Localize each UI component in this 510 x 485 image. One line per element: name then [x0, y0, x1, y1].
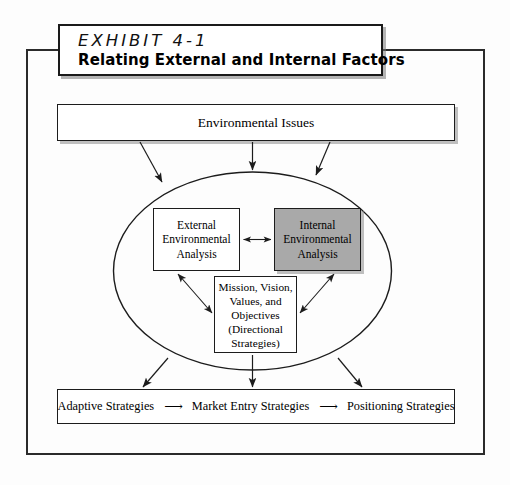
external-analysis-line-3: Analysis: [162, 247, 230, 262]
external-analysis-line-1: External: [162, 218, 230, 233]
external-analysis-line-2: Environmental: [162, 232, 230, 247]
internal-analysis-line-1: Internal: [283, 218, 351, 233]
exhibit-subtitle: Relating External and Internal Factors: [78, 50, 381, 71]
market-entry-strategies-label: Market Entry Strategies: [192, 399, 309, 414]
directional-strategies-line-1: Mission, Vision,: [218, 280, 292, 294]
positioning-strategies-label: Positioning Strategies: [347, 399, 455, 414]
internal-analysis-line-2: Environmental: [283, 232, 351, 247]
strategies-sequence-box: Adaptive Strategies ⟶ Market Entry Strat…: [57, 389, 455, 424]
exhibit-title-block: EXHIBIT 4-1 Relating External and Intern…: [58, 24, 383, 76]
strategies-sequence-row: Adaptive Strategies ⟶ Market Entry Strat…: [58, 399, 454, 414]
directional-strategies-box: Mission, Vision, Values, and Objectives …: [214, 276, 297, 353]
directional-strategies-line-4: (Directional: [218, 322, 292, 336]
internal-environmental-analysis-box: Internal Environmental Analysis: [274, 208, 361, 271]
environmental-issues-box: Environmental Issues: [57, 104, 455, 141]
strategies-arrow-2-icon: ⟶: [319, 400, 337, 413]
exhibit-number-label: EXHIBIT 4-1: [78, 31, 381, 50]
strategies-arrow-1-icon: ⟶: [164, 400, 182, 413]
directional-strategies-line-2: Values, and: [218, 294, 292, 308]
exhibit-page: EXHIBIT 4-1 Relating External and Intern…: [0, 0, 510, 485]
internal-analysis-line-3: Analysis: [283, 247, 351, 262]
environmental-issues-label: Environmental Issues: [198, 115, 315, 131]
external-environmental-analysis-box: External Environmental Analysis: [153, 208, 240, 271]
directional-strategies-line-3: Objectives: [218, 308, 292, 322]
directional-strategies-line-5: Strategies): [218, 336, 292, 350]
adaptive-strategies-label: Adaptive Strategies: [58, 399, 155, 414]
